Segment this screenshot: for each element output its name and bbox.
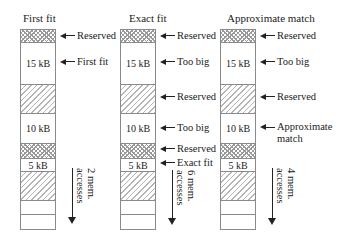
arrow-left-icon [160, 159, 175, 167]
access-count-label: 2 mem. accesses [75, 168, 97, 204]
arrow-left-icon [160, 124, 175, 132]
reserved-block [220, 29, 256, 43]
reserved-block [20, 29, 56, 43]
arrow-left-icon [160, 58, 175, 66]
empty-block [20, 214, 56, 230]
reserved-block [120, 143, 156, 159]
reserved-block [20, 143, 56, 159]
annotation-exact-fit: Exact fit [160, 157, 213, 168]
arrow-left-icon [260, 123, 275, 131]
annotation-reserved: Reserved [60, 30, 116, 41]
reserved-block [120, 84, 156, 114]
reserved-block [220, 84, 256, 114]
free-block-5kb: 5 kB [120, 158, 156, 172]
reserved-block [120, 171, 156, 201]
free-block-10kb: 10 kB [220, 113, 256, 144]
annotation-approximate-match: Approximate match [260, 121, 332, 145]
column-title-exact-fit: Exact fit [129, 12, 167, 24]
free-block-10kb: 10 kB [20, 113, 56, 144]
empty-block [220, 214, 256, 230]
empty-block [120, 200, 156, 215]
empty-block [120, 214, 156, 230]
annotation-too-big: Too big [160, 122, 209, 133]
reserved-block [220, 143, 256, 159]
arrow-left-icon [160, 32, 175, 40]
free-block-15kb: 15 kB [220, 42, 256, 85]
annotation-reserved: Reserved [260, 30, 316, 41]
annotation-reserved: Reserved [160, 143, 216, 154]
reserved-block [20, 171, 56, 201]
free-block-5kb: 5 kB [20, 158, 56, 172]
access-count-label: 6 mem. accesses [175, 170, 197, 206]
annotation-reserved: Reserved [160, 30, 216, 41]
annotation-reserved: Reserved [160, 91, 216, 102]
empty-block [220, 200, 256, 215]
arrow-left-icon [60, 58, 75, 66]
arrow-left-icon [160, 93, 175, 101]
free-block-10kb: 10 kB [120, 113, 156, 144]
arrow-left-icon [260, 93, 275, 101]
arrow-left-icon [60, 32, 75, 40]
access-count-label: 4 mem. accesses [275, 168, 297, 204]
arrow-left-icon [260, 32, 275, 40]
annotation-too-big: Too big [260, 56, 309, 67]
reserved-block [220, 171, 256, 201]
annotation-too-big: Too big [160, 56, 209, 67]
column-title-first-fit: First fit [23, 12, 56, 24]
free-block-5kb: 5 kB [220, 158, 256, 172]
arrow-left-icon [260, 58, 275, 66]
reserved-block [20, 84, 56, 114]
free-block-15kb: 15 kB [120, 42, 156, 85]
annotation-reserved: Reserved [260, 91, 316, 102]
empty-block [20, 200, 56, 215]
free-block-15kb: 15 kB [20, 42, 56, 85]
column-title-approximate-match: Approximate match [227, 12, 315, 24]
reserved-block [120, 29, 156, 43]
arrow-left-icon [160, 145, 175, 153]
annotation-first-fit: First fit [60, 56, 108, 67]
